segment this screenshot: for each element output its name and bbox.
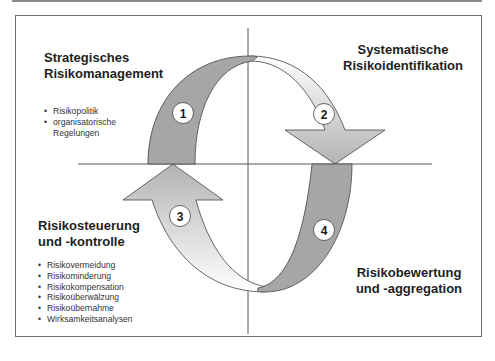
arrow-3-shape	[123, 164, 268, 292]
title-line: Risikosteuerung	[38, 218, 140, 234]
bullet-item: organisatorische	[44, 117, 116, 128]
title-line: und -kontrolle	[38, 234, 140, 250]
title-line: Risikomanagement	[44, 66, 163, 82]
step-number-3: 3	[177, 210, 184, 224]
bullet-item: Risikoüberwälzung	[38, 292, 132, 303]
title-line: und -aggregation	[344, 281, 474, 297]
title-line: Risikobewertung	[344, 265, 474, 281]
step-badge-4: 4	[314, 220, 335, 241]
bullets-risk-control: Risikovermeidung Risikominderung Risikok…	[38, 260, 132, 325]
step-badge-2: 2	[314, 104, 335, 125]
title-line: Risikoidentifikation	[337, 58, 469, 74]
bullet-item: Wirksamkeitsanalysen	[38, 314, 132, 325]
title-risk-control: Risikosteuerung und -kontrolle	[38, 218, 140, 250]
bullet-item: Risikokompensation	[38, 282, 132, 293]
bullet-item: Risikovermeidung	[38, 260, 132, 271]
title-risk-assessment-aggregation: Risikobewertung und -aggregation	[344, 265, 474, 297]
bullet-item: Risikominderung	[38, 271, 132, 282]
step-number-1: 1	[180, 107, 187, 121]
arrow-1-shape	[148, 56, 257, 164]
step-badge-3: 3	[170, 206, 191, 227]
step-number-2: 2	[321, 108, 328, 122]
arrow-4-shape	[258, 164, 352, 292]
title-line: Systematische	[337, 42, 469, 58]
title-line: Strategisches	[44, 50, 163, 66]
bullet-item: Regelungen	[44, 128, 116, 139]
bullets-strategic-risk-management: Risikopolitik organisatorische Regelunge…	[44, 106, 116, 138]
step-badge-1: 1	[173, 103, 194, 124]
bullet-item: Risikopolitik	[44, 106, 116, 117]
step-number-4: 4	[321, 224, 328, 238]
bullet-item: Risikoübernahme	[38, 303, 132, 314]
title-strategic-risk-management: Strategisches Risikomanagement	[44, 50, 163, 82]
title-systematic-risk-identification: Systematische Risikoidentifikation	[337, 42, 469, 74]
